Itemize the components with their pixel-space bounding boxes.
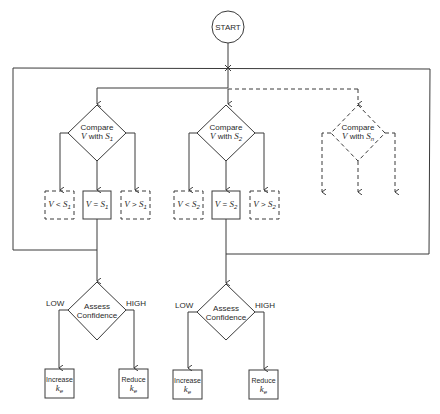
compare-s1-line2: V with S1 xyxy=(72,132,122,144)
start-label: START xyxy=(215,23,240,32)
outcome-v-gt-s2: V > S2 xyxy=(250,200,279,212)
outcome-v-eq-s2: V = S2 xyxy=(212,200,240,212)
assess-1-low-label: LOW xyxy=(46,299,64,308)
assess-2-line1: Assess xyxy=(201,304,251,313)
outcome-v-gt-s1: V > S1 xyxy=(121,200,150,212)
compare-s2-line2: V with S2 xyxy=(201,132,251,144)
compare-s1-line1: Compare xyxy=(72,123,122,132)
start-node: START xyxy=(212,23,244,32)
compare-sn-line1: Compare xyxy=(333,123,383,132)
assess-confidence-1-node: Assess Confidence xyxy=(72,302,122,320)
action-increase-ke-1: Increase ke xyxy=(45,375,74,396)
compare-s2-line1: Compare xyxy=(201,123,251,132)
compare-sn-line2: V with Sn xyxy=(333,132,383,144)
compare-sn-node: Compare V with Sn xyxy=(333,123,383,144)
compare-s2-node: Compare V with S2 xyxy=(201,123,251,144)
assess-2-high-label: HIGH xyxy=(255,301,275,310)
assess-1-line2: Confidence xyxy=(72,311,122,320)
action-increase-ke-2: Increase ke xyxy=(173,376,202,397)
action-reduce-ke-2: Reduce ke xyxy=(249,376,278,397)
outcome-v-lt-s1: V < S1 xyxy=(45,200,74,212)
assess-2-low-label: LOW xyxy=(175,301,193,310)
compare-s1-node: Compare V with S1 xyxy=(72,123,122,144)
outcome-v-lt-s2: V < S2 xyxy=(174,200,203,212)
action-reduce-ke-1: Reduce ke xyxy=(119,375,148,396)
assess-confidence-2-node: Assess Confidence xyxy=(201,304,251,322)
outcome-v-eq-s1: V = S1 xyxy=(83,200,111,212)
assess-1-line1: Assess xyxy=(72,302,122,311)
assess-2-line2: Confidence xyxy=(201,313,251,322)
flowchart: START Compare V with S1 Compare V with S… xyxy=(0,0,440,414)
assess-1-high-label: HIGH xyxy=(126,299,146,308)
